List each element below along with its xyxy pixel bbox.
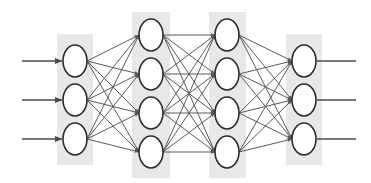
connection-hidden-layer-2-n3-to-output-layer-n0 [239,61,292,152]
connection-input-layer-n1-to-hidden-layer-1-n0 [87,35,139,100]
connection-input-layer-n2-to-hidden-layer-1-n2 [87,113,139,139]
neuron-hidden-layer-1-0 [139,19,163,51]
neuron-hidden-layer-1-2 [139,97,163,129]
neuron-hidden-layer-1-1 [139,58,163,90]
connection-hidden-layer-2-n3-to-output-layer-n1 [239,100,292,152]
neural-network-canvas: Feedforward neural network architecture … [0,0,371,183]
neuron-input-layer-0 [63,45,87,77]
connection-input-layer-n2-to-hidden-layer-1-n1 [87,74,139,139]
neuron-hidden-layer-1-3 [139,136,163,168]
connection-hidden-layer-2-n0-to-output-layer-n0 [239,35,292,61]
neuron-output-layer-1 [292,84,316,116]
connection-input-layer-n2-to-hidden-layer-1-n0 [87,35,139,139]
connection-input-layer-n0-to-hidden-layer-1-n0 [87,35,139,61]
neuron-output-layer-0 [292,45,316,77]
connection-hidden-layer-2-n2-to-output-layer-n0 [239,61,292,113]
neuron-hidden-layer-2-2 [215,97,239,129]
neuron-output-layer-2 [292,123,316,155]
neuron-hidden-layer-2-0 [215,19,239,51]
neuron-input-layer-2 [63,123,87,155]
connection-hidden-layer-2-n3-to-output-layer-n2 [239,139,292,152]
neuron-hidden-layer-2-1 [215,58,239,90]
connections-group [87,35,292,152]
connection-input-layer-n2-to-hidden-layer-1-n3 [87,139,139,152]
neuron-input-layer-1 [63,84,87,116]
connection-hidden-layer-2-n1-to-output-layer-n0 [239,61,292,74]
neuron-hidden-layer-2-3 [215,136,239,168]
neural-network-diagram: Feedforward neural network architecture … [0,0,371,183]
